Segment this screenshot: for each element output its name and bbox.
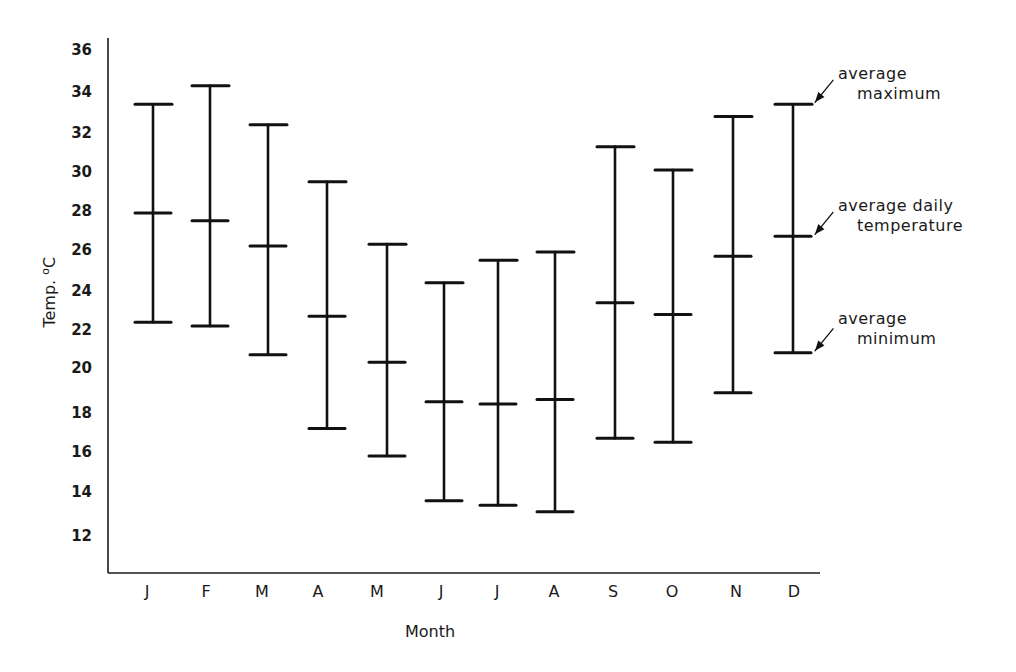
y-axis-label: Temp. oC [39,237,59,347]
y-tick-label: 12 [52,527,92,545]
error-bar-1 [135,104,172,322]
error-bars [135,86,812,512]
x-tick-label: J [426,582,456,602]
error-bar-9 [597,147,634,439]
error-bar-12 [775,104,812,352]
x-tick-label: S [598,582,628,602]
error-bar-2 [192,86,229,326]
error-bar-8 [537,252,574,512]
error-bar-3 [250,125,287,355]
x-tick-label: M [247,582,277,602]
arrow-head-icon [815,341,824,351]
arrow-head-icon [815,92,824,102]
error-bar-10 [655,170,692,442]
y-tick-label: 34 [52,83,92,101]
y-tick-label: 14 [52,483,92,501]
y-tick-label: 16 [52,443,92,461]
x-tick-label: N [721,582,751,602]
error-bar-7 [480,260,517,505]
annotation-average-daily-temperature: average daily temperature [838,196,963,236]
arrow-head-icon [815,224,824,234]
x-tick-label: M [362,582,392,602]
error-bar-11 [715,117,752,393]
y-tick-label: 32 [52,124,92,142]
x-tick-label: J [132,582,162,602]
annotation-average-minimum: average minimum [838,309,936,349]
y-tick-label: 30 [52,163,92,181]
x-tick-label: A [303,582,333,602]
error-bar-5 [369,244,406,456]
axes [108,38,820,573]
annotation-average-maximum: average maximum [838,64,941,104]
error-bar-4 [309,182,346,429]
y-tick-label: 36 [52,41,92,59]
error-bar-6 [426,283,463,501]
annotation-arrows [815,80,833,351]
x-tick-label: F [191,582,221,602]
y-tick-label: 20 [52,359,92,377]
x-tick-label: O [657,582,687,602]
x-axis-label: Month [380,622,480,641]
x-tick-label: D [779,582,809,602]
x-tick-label: A [539,582,569,602]
y-tick-label: 18 [52,404,92,422]
x-tick-label: J [482,582,512,602]
y-tick-label: 28 [52,202,92,220]
